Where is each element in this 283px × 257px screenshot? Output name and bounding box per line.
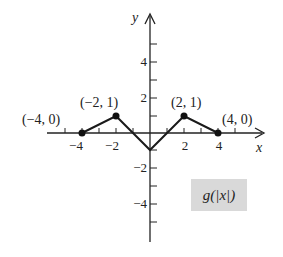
y-axis-label: y [130, 10, 139, 25]
y-tick-label: −4 [133, 196, 147, 211]
point-label: (4, 0) [222, 112, 253, 128]
point-label: (2, 1) [171, 95, 202, 111]
y-tick-label: 4 [141, 54, 148, 69]
function-label: g(|x|) [203, 187, 235, 204]
y-tick-label: 2 [141, 90, 148, 105]
x-tick-label: −4 [69, 138, 83, 153]
point-label: (−2, 1) [80, 95, 119, 111]
point-label: (−4, 0) [22, 112, 61, 128]
x-tick-label: −2 [105, 138, 119, 153]
x-tick-label: 4 [216, 138, 223, 153]
graph: −4 −2 2 4 4 2 −2 −4 x y (−4, 0) (−2, 1) … [0, 0, 283, 257]
x-axis-label: x [255, 140, 263, 155]
y-tick-label: −2 [133, 160, 147, 175]
x-tick-label: 2 [182, 138, 189, 153]
